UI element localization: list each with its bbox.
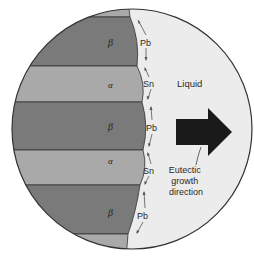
growth-direction-label: Eutectic growth direction xyxy=(169,165,204,197)
alpha-lamella-2 xyxy=(0,150,145,185)
eutectic-growth-diagram: β α β α β Pb Sn Pb Sn Pb Liquid E xyxy=(0,0,254,259)
solid-lamellae xyxy=(0,0,146,259)
growth-label-line2: growth xyxy=(171,176,198,186)
phase-label-alpha-2: α xyxy=(108,156,113,166)
beta-lamella-1 xyxy=(0,17,138,66)
diffusion-label-pb-1: Pb xyxy=(140,38,151,48)
liquid-label: Liquid xyxy=(177,78,202,89)
phase-label-alpha-1: α xyxy=(108,80,113,90)
phase-label-beta-3: β xyxy=(107,207,113,218)
alpha-lamella-top xyxy=(0,0,130,17)
diffusion-label-sn-2: Sn xyxy=(143,166,154,176)
phase-label-beta-2: β xyxy=(107,121,113,132)
alpha-lamella-1 xyxy=(0,66,143,102)
beta-lamella-3 xyxy=(0,185,140,234)
diffusion-label-pb-2: Pb xyxy=(146,123,157,133)
growth-label-line1: Eutectic xyxy=(169,165,202,175)
diffusion-label-pb-3: Pb xyxy=(137,211,148,221)
diffusion-label-sn-1: Sn xyxy=(143,79,154,89)
beta-lamella-2 xyxy=(0,102,146,150)
phase-label-beta-1: β xyxy=(107,37,113,48)
growth-label-line3: direction xyxy=(169,187,203,197)
